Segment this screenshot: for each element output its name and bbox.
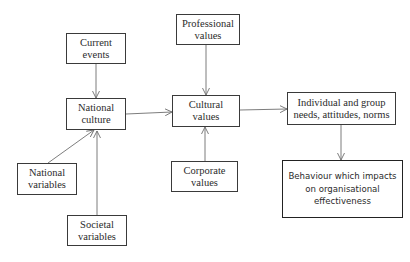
node-label-line: values — [184, 177, 226, 189]
node-label-line: Individual and group — [293, 97, 389, 109]
node-professional-values: Professional values — [176, 14, 240, 45]
node-label-line: Cultural — [189, 99, 223, 111]
node-label-line: Professional — [182, 18, 234, 30]
node-current-events: Current events — [66, 33, 126, 64]
node-label-line: National — [28, 167, 66, 179]
node-label-line: needs, attitudes, norms — [293, 109, 389, 121]
node-corporate-values: Corporate values — [171, 161, 238, 192]
node-label-line: culture — [78, 114, 114, 126]
node-label-line: variables — [78, 231, 116, 243]
node-national-culture: National culture — [66, 98, 126, 130]
arrow-national-variables-to-national-culture — [48, 130, 94, 163]
node-label-line: variables — [28, 179, 66, 191]
arrow-national-culture-to-cultural-values — [126, 112, 172, 114]
node-label-line: Current — [80, 37, 112, 49]
diagram-canvas: Current events National culture National… — [0, 0, 410, 262]
node-cultural-values: Cultural values — [172, 95, 240, 127]
node-label-line: on organisational — [288, 183, 396, 196]
node-national-variables: National variables — [17, 163, 77, 195]
node-label-line: values — [189, 111, 223, 123]
node-label-line: Behaviour which impacts — [288, 170, 396, 183]
node-individual-group-needs: Individual and group needs, attitudes, n… — [287, 92, 396, 125]
node-label-line: Corporate — [184, 165, 226, 177]
node-label-line: Societal — [78, 219, 116, 231]
node-societal-variables: Societal variables — [67, 215, 127, 246]
node-label-line: National — [78, 102, 114, 114]
node-label-line: values — [182, 30, 234, 42]
node-label-line: effectiveness — [288, 195, 396, 208]
arrow-cultural-values-to-individual-group — [240, 109, 287, 110]
node-behaviour-effectiveness: Behaviour which impacts on organisationa… — [282, 160, 403, 218]
node-label-line: events — [80, 49, 112, 61]
